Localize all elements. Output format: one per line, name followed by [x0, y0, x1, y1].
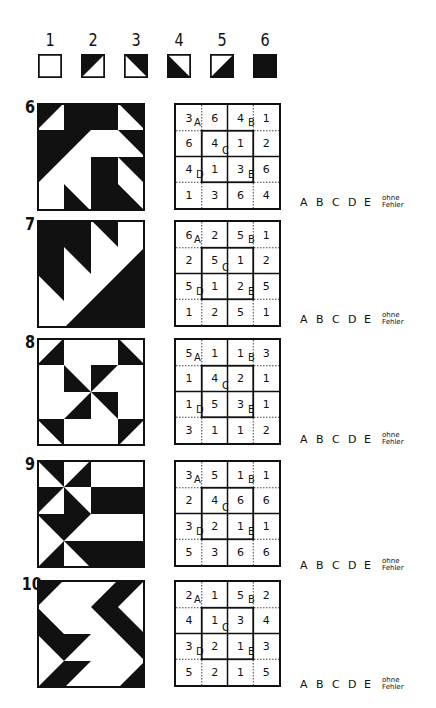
- answer-no-error[interactable]: ohneFehler: [382, 312, 404, 326]
- grid-cell: 2: [202, 514, 228, 540]
- answer-options: ABCDEohneFehler: [300, 432, 404, 446]
- answer-option-d[interactable]: D: [348, 559, 364, 572]
- grid-cell: 1: [253, 462, 279, 488]
- answer-option-d[interactable]: D: [348, 678, 364, 691]
- grid-cell: 1: [176, 366, 202, 392]
- answer-no-error[interactable]: ohneFehler: [382, 432, 404, 446]
- grid-cell: 5: [228, 299, 254, 325]
- grid-cell: 2: [253, 248, 279, 274]
- answer-option-c[interactable]: C: [332, 678, 348, 691]
- pattern-picture: [37, 580, 145, 688]
- grid-cell: 2: [176, 248, 202, 274]
- answer-option-b[interactable]: B: [316, 196, 332, 209]
- grid-label-c: C: [222, 262, 229, 273]
- grid-cell: 6: [253, 488, 279, 514]
- grid-cell: 1: [202, 340, 228, 366]
- grid-label-d: D: [196, 526, 204, 537]
- no-error-line2: Fehler: [382, 202, 404, 209]
- no-error-line2: Fehler: [382, 439, 404, 446]
- grid-label-c: C: [222, 502, 229, 513]
- grid-cell: 5: [202, 462, 228, 488]
- answer-option-e[interactable]: E: [364, 313, 380, 326]
- legend-number: 5: [213, 30, 232, 50]
- legend-number: 1: [41, 30, 60, 50]
- grid-cell: 1: [202, 582, 228, 608]
- no-error-line2: Fehler: [382, 684, 404, 691]
- no-error-line2: Fehler: [382, 565, 404, 572]
- grid-cell: 1: [253, 366, 279, 392]
- grid-cell: 1: [253, 299, 279, 325]
- legend-number: 4: [170, 30, 189, 50]
- grid-label-a: A: [194, 594, 201, 605]
- legend-number: 3: [127, 30, 146, 50]
- grid-label-b: B: [248, 234, 255, 245]
- grid-cell: 1: [228, 131, 254, 157]
- grid-cell: 6: [176, 131, 202, 157]
- answer-option-d[interactable]: D: [348, 313, 364, 326]
- grid-label-d: D: [196, 404, 204, 415]
- answer-option-a[interactable]: A: [300, 559, 316, 572]
- answer-option-a[interactable]: A: [300, 196, 316, 209]
- answer-option-b[interactable]: B: [316, 313, 332, 326]
- answer-option-c[interactable]: C: [332, 559, 348, 572]
- legend-tile-4: [167, 54, 191, 78]
- grid-cell: 2: [202, 659, 228, 685]
- grid-cell: 1: [202, 274, 228, 300]
- grid-cell: 1: [202, 417, 228, 443]
- puzzle-number: 7: [25, 214, 35, 234]
- grid-label-a: A: [194, 117, 201, 128]
- answer-option-e[interactable]: E: [364, 559, 380, 572]
- grid-label-a: A: [194, 352, 201, 363]
- pattern-picture: [37, 338, 145, 446]
- answer-option-d[interactable]: D: [348, 196, 364, 209]
- pattern-picture: [37, 220, 145, 328]
- grid-cell: 2: [176, 488, 202, 514]
- answer-option-c[interactable]: C: [332, 433, 348, 446]
- answer-option-b[interactable]: B: [316, 559, 332, 572]
- answer-option-c[interactable]: C: [332, 196, 348, 209]
- legend-tile-3: [124, 54, 148, 78]
- answer-option-d[interactable]: D: [348, 433, 364, 446]
- grid-label-c: C: [222, 622, 229, 633]
- grid-label-a: A: [194, 234, 201, 245]
- answer-option-e[interactable]: E: [364, 196, 380, 209]
- answer-no-error[interactable]: ohneFehler: [382, 558, 404, 572]
- answer-option-a[interactable]: A: [300, 433, 316, 446]
- grid-cell: 3: [253, 340, 279, 366]
- grid-cell: 3: [202, 539, 228, 565]
- grid-cell: 2: [253, 131, 279, 157]
- grid-cell: 1: [253, 222, 279, 248]
- no-error-line2: Fehler: [382, 319, 404, 326]
- answer-no-error[interactable]: ohneFehler: [382, 195, 404, 209]
- grid-cell: 1: [253, 392, 279, 418]
- grid-label-b: B: [248, 117, 255, 128]
- grid-label-e: E: [248, 526, 254, 537]
- answer-option-e[interactable]: E: [364, 433, 380, 446]
- grid-cell: 4: [176, 608, 202, 634]
- grid-cell: 1: [176, 299, 202, 325]
- grid-cell: 2: [202, 299, 228, 325]
- grid-label-e: E: [248, 169, 254, 180]
- grid-cell: 1: [228, 659, 254, 685]
- answer-no-error[interactable]: ohneFehler: [382, 677, 404, 691]
- answer-option-e[interactable]: E: [364, 678, 380, 691]
- grid-cell: 6: [228, 488, 254, 514]
- answer-option-b[interactable]: B: [316, 433, 332, 446]
- answer-option-c[interactable]: C: [332, 313, 348, 326]
- grid-label-d: D: [196, 646, 204, 657]
- answer-option-a[interactable]: A: [300, 678, 316, 691]
- grid-cell: 4: [253, 608, 279, 634]
- answer-options: ABCDEohneFehler: [300, 195, 404, 209]
- grid-label-a: A: [194, 474, 201, 485]
- grid-cell: 3: [202, 182, 228, 208]
- answer-option-b[interactable]: B: [316, 678, 332, 691]
- grid-cell: 3: [253, 634, 279, 660]
- grid-cell: 6: [253, 157, 279, 183]
- answer-option-a[interactable]: A: [300, 313, 316, 326]
- grid-cell: 1: [253, 105, 279, 131]
- grid-label-e: E: [248, 646, 254, 657]
- puzzle-number: 8: [25, 332, 35, 352]
- grid-cell: 2: [202, 222, 228, 248]
- legend-tile-2: [81, 54, 105, 78]
- grid-cell: 1: [176, 182, 202, 208]
